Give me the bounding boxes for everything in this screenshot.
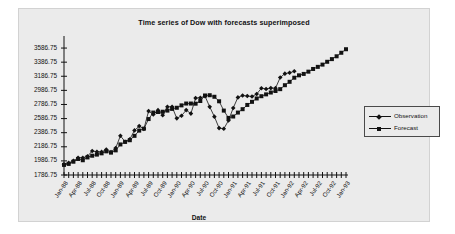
x-axis-title: Date: [19, 214, 379, 221]
diamond-marker-icon: [376, 114, 382, 120]
square-marker-icon: [377, 127, 381, 131]
legend-label-forecast: Forecast: [394, 125, 418, 131]
y-axis-tick-label: 2386.75: [34, 129, 57, 135]
legend-item-observation: Observation: [369, 111, 427, 122]
y-axis-tick-label: 2786.75: [34, 101, 57, 107]
legend-item-forecast: Forecast: [369, 123, 418, 134]
chart-legend: Observation Forecast: [364, 106, 440, 137]
legend-label-observation: Observation: [394, 113, 427, 119]
legend-line-forecast: [369, 128, 391, 129]
y-axis-tick-label: 1786.75: [34, 172, 57, 178]
y-axis-tick-label: 3386.75: [34, 59, 57, 65]
legend-line-observation: [369, 116, 391, 117]
y-axis-tick-label: 2186.75: [34, 143, 57, 149]
chart-frame: Time series of Dow with forecasts superi…: [18, 8, 430, 222]
y-axis-tick-label: 3586.75: [34, 45, 57, 51]
chart-screenshot: Time series of Dow with forecasts superi…: [0, 0, 455, 234]
y-axis-tick-label: 1986.75: [34, 157, 57, 163]
y-axis-tick-label: 2986.75: [34, 87, 57, 93]
y-axis-tick-label: 3186.75: [34, 73, 57, 79]
y-axis-tick-label: 2586.75: [34, 115, 57, 121]
